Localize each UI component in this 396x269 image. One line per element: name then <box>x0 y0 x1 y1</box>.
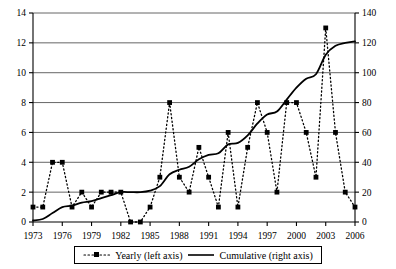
svg-text:140: 140 <box>362 8 377 18</box>
x-tick-labels: 1973197619791982198519881991199419972000… <box>24 231 365 241</box>
axis-right <box>355 13 359 222</box>
legend-label-cumulative: Cumulative (right axis) <box>219 250 312 261</box>
legend-entry-yearly: Yearly (left axis) <box>83 250 182 261</box>
svg-text:100: 100 <box>362 68 377 78</box>
svg-text:8: 8 <box>21 98 26 108</box>
svg-text:20: 20 <box>362 188 372 198</box>
svg-text:80: 80 <box>362 98 372 108</box>
svg-text:1979: 1979 <box>82 231 101 241</box>
svg-text:2000: 2000 <box>287 231 306 241</box>
svg-text:0: 0 <box>362 217 367 227</box>
y-tick-labels-right: 020406080100120140 <box>362 8 377 227</box>
svg-text:12: 12 <box>17 38 27 48</box>
grid-lines <box>33 13 355 192</box>
svg-text:1997: 1997 <box>258 231 277 241</box>
svg-text:1994: 1994 <box>228 231 247 241</box>
svg-text:14: 14 <box>17 8 27 18</box>
svg-text:1973: 1973 <box>24 231 43 241</box>
svg-text:60: 60 <box>362 128 372 138</box>
svg-text:1976: 1976 <box>53 231 72 241</box>
chart-svg: 02468101214 020406080100120140 197319761… <box>0 0 396 269</box>
svg-text:120: 120 <box>362 38 377 48</box>
legend-entry-cumulative: Cumulative (right axis) <box>187 250 312 261</box>
legend-label-yearly: Yearly (left axis) <box>115 250 182 261</box>
svg-text:40: 40 <box>362 158 372 168</box>
svg-text:0: 0 <box>21 217 26 227</box>
y-tick-labels-left: 02468101214 <box>17 8 27 227</box>
legend-swatch-dotted-marker <box>83 250 111 260</box>
axis-left <box>29 13 33 222</box>
svg-text:1988: 1988 <box>170 231 189 241</box>
axis-bottom <box>33 222 355 226</box>
svg-text:4: 4 <box>21 158 26 168</box>
chart-legend: Yearly (left axis) Cumulative (right axi… <box>74 246 322 264</box>
svg-text:2: 2 <box>21 188 26 198</box>
series-yearly <box>31 26 358 225</box>
svg-text:6: 6 <box>21 128 26 138</box>
chart-container: 02468101214 020406080100120140 197319761… <box>0 0 396 269</box>
svg-text:10: 10 <box>17 68 27 78</box>
svg-text:1982: 1982 <box>111 231 130 241</box>
svg-text:2003: 2003 <box>316 231 335 241</box>
svg-text:1985: 1985 <box>141 231 160 241</box>
legend-swatch-solid-line <box>187 250 215 260</box>
svg-text:2006: 2006 <box>346 231 365 241</box>
svg-text:1991: 1991 <box>199 231 218 241</box>
